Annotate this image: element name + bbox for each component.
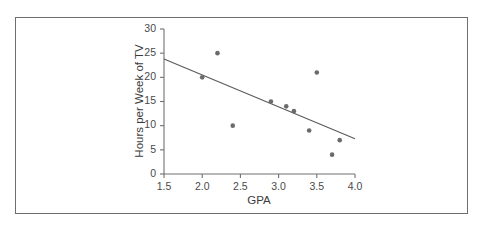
- regression-line: [164, 59, 355, 139]
- data-point: [269, 99, 274, 104]
- y-axis-tick-labels: 051015202530: [144, 22, 156, 179]
- y-tick-label: 15: [144, 94, 156, 106]
- x-axis-group: 1.52.02.53.03.54.0 GPA: [157, 174, 363, 206]
- data-point: [307, 128, 312, 133]
- y-axis-ticks: [160, 29, 164, 174]
- x-tick-label: 3.0: [271, 180, 286, 192]
- y-tick-label: 25: [144, 46, 156, 58]
- y-tick-label: 20: [144, 70, 156, 82]
- data-point: [292, 109, 297, 114]
- y-axis-group: 051015202530 Hours per Week of TV: [133, 22, 164, 179]
- x-tick-label: 3.5: [309, 180, 324, 192]
- x-tick-label: 2.5: [233, 180, 248, 192]
- figure-root: 051015202530 Hours per Week of TV 1.52.0…: [0, 0, 484, 232]
- y-tick-label: 5: [150, 143, 156, 155]
- x-tick-label: 1.5: [157, 180, 172, 192]
- data-point: [215, 51, 220, 56]
- data-point: [315, 70, 320, 75]
- data-point: [330, 152, 335, 157]
- y-tick-label: 0: [150, 167, 156, 179]
- y-tick-label: 30: [144, 22, 156, 34]
- x-tick-label: 4.0: [348, 180, 363, 192]
- data-point: [200, 75, 205, 80]
- x-tick-label: 2.0: [195, 180, 210, 192]
- y-axis-title: Hours per Week of TV: [133, 44, 145, 158]
- scatter-plot: 051015202530 Hours per Week of TV 1.52.0…: [0, 0, 484, 232]
- x-axis-ticks: [164, 174, 355, 178]
- data-point: [284, 104, 289, 109]
- x-axis-title: GPA: [247, 194, 271, 206]
- x-axis-tick-labels: 1.52.02.53.03.54.0: [157, 180, 363, 192]
- data-point: [337, 138, 342, 143]
- y-tick-label: 10: [144, 118, 156, 130]
- data-point: [230, 123, 235, 128]
